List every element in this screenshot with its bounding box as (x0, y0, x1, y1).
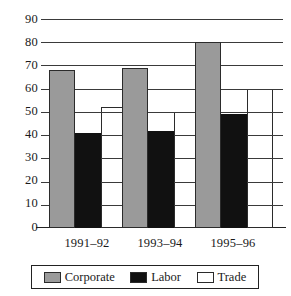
black-swatch-icon (130, 272, 147, 283)
bar-labor-1995-96 (221, 114, 247, 228)
x-axis-label-1993-94: 1993–94 (120, 236, 200, 251)
gray-swatch-icon (44, 272, 61, 283)
y-axis-tick: 90 (8, 13, 38, 26)
bar-labor-1991-92 (75, 133, 101, 228)
y-axis-tick: 30 (8, 151, 38, 164)
y-axis-tick: 40 (8, 128, 38, 141)
bar-chart: 90 80 70 60 50 40 30 20 10 0 (0, 0, 291, 296)
y-axis-tick: 60 (8, 82, 38, 95)
gridline-80 (41, 42, 283, 43)
bar-corporate-1991-92 (49, 70, 75, 228)
plot-area (41, 19, 283, 228)
y-axis-tick: 70 (8, 59, 38, 72)
y-axis-tick: 10 (8, 197, 38, 210)
gridline-90 (41, 19, 283, 20)
legend-item-corporate: Corporate (44, 271, 115, 284)
legend-item-trade: Trade (197, 271, 247, 284)
y-axis-tick: 50 (8, 105, 38, 118)
bar-corporate-1995-96 (195, 42, 221, 228)
y-axis-tick: 20 (8, 174, 38, 187)
legend-label-labor: Labor (151, 271, 181, 284)
chart-legend: Corporate Labor Trade (31, 265, 259, 289)
gridline-70 (41, 65, 283, 66)
bar-trade-1995-96 (247, 89, 273, 228)
legend-label-corporate: Corporate (65, 271, 115, 284)
bar-labor-1993-94 (148, 131, 174, 229)
x-axis-label-1991-92: 1991–92 (47, 236, 127, 251)
legend-label-trade: Trade (218, 271, 247, 284)
y-axis-tick: 80 (8, 36, 38, 49)
y-axis-tick: 0 (8, 221, 38, 234)
bar-corporate-1993-94 (122, 68, 148, 228)
legend-item-labor: Labor (130, 271, 181, 284)
x-axis-label-1995-96: 1995–96 (193, 236, 273, 251)
white-swatch-icon (197, 272, 214, 283)
